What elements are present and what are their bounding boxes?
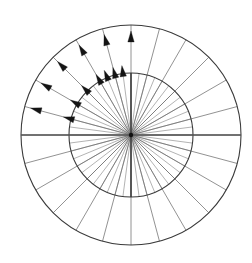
outer-spoke (131, 29, 159, 135)
polar-diagram-canvas (0, 0, 252, 263)
outer-spoke (76, 135, 131, 230)
outer-spoke (103, 135, 131, 241)
outer-spoke (131, 135, 226, 190)
inner-vector-arrow-icon (63, 117, 74, 123)
outer-spoke (131, 40, 186, 135)
outer-spoke (131, 135, 186, 230)
outer-spoke (131, 80, 226, 135)
origin-point (129, 133, 133, 137)
outer-spoke (36, 135, 131, 190)
polar-diagram-figure (0, 0, 252, 263)
outer-spoke (131, 135, 237, 163)
outer-vector-arrow-icon (41, 83, 52, 91)
outer-spoke (131, 57, 209, 135)
outer-vector-arrow-icon (128, 31, 134, 42)
outer-vector-arrow-icon (79, 45, 87, 56)
outer-spoke (25, 135, 131, 163)
outer-spoke (131, 135, 209, 213)
vector-arrowheads-group (31, 31, 135, 123)
outer-vector-arrow-icon (31, 108, 42, 114)
outer-spoke (131, 135, 159, 241)
inner-vector-arrow-icon (120, 66, 126, 77)
outer-vector-arrow-icon (104, 35, 110, 46)
inner-vector-arrow-icon (113, 67, 119, 78)
outer-spoke (53, 135, 131, 213)
outer-spoke (131, 107, 237, 135)
